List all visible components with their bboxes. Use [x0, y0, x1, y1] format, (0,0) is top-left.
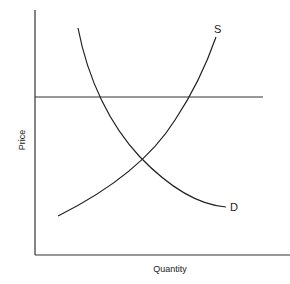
- demand-curve: [78, 28, 226, 207]
- x-axis-label: Quantity: [153, 264, 187, 274]
- chart-svg: S D Quantity Price: [0, 0, 290, 284]
- supply-label: S: [214, 23, 221, 35]
- demand-label: D: [230, 201, 238, 213]
- supply-curve: [58, 37, 216, 216]
- supply-demand-chart: S D Quantity Price: [0, 0, 290, 284]
- y-axis-label: Price: [17, 130, 27, 151]
